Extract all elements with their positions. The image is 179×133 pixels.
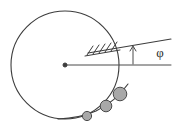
hatch-mark (99, 44, 105, 53)
rolling-balls-group (82, 87, 126, 120)
center-dot (63, 63, 67, 67)
rolling-ball-2 (100, 100, 112, 112)
angle-arrow-group (130, 46, 136, 64)
hatch-mark (93, 45, 99, 54)
physics-diagram-figure: φ (0, 0, 179, 133)
hatch-mark (87, 46, 93, 55)
hatch-mark (105, 43, 111, 52)
diagram-canvas: φ (0, 0, 179, 133)
rolling-ball-3 (113, 87, 127, 101)
angle-label-phi: φ (156, 45, 164, 60)
rolling-ball-1 (82, 111, 91, 120)
